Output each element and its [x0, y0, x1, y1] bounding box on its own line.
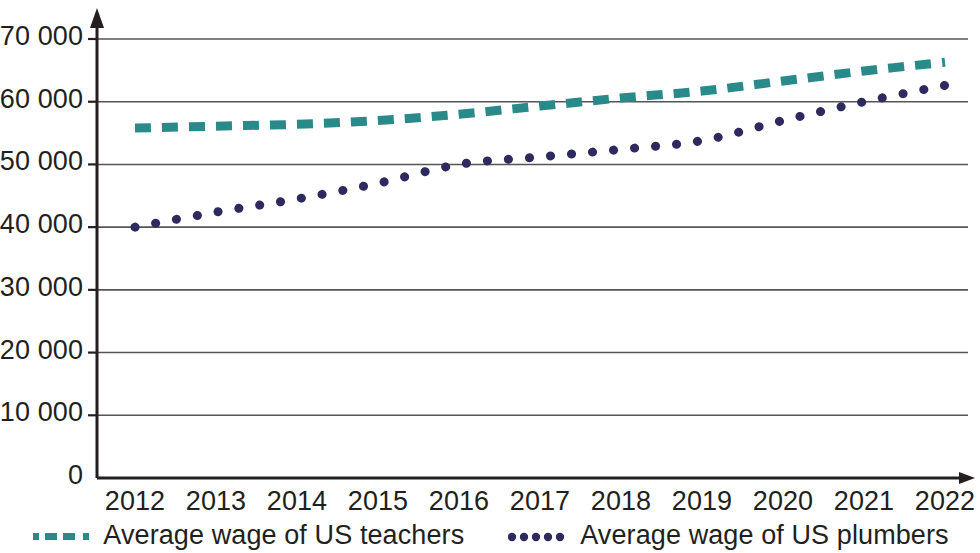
axes-group	[88, 8, 975, 484]
x-axis-tick-label: 2021	[819, 486, 909, 517]
gridlines-group	[97, 39, 968, 415]
legend-label: Average wage of US plumbers	[580, 520, 948, 551]
x-axis-tick-label: 2017	[495, 486, 585, 517]
series-line-teachers	[135, 62, 945, 128]
x-axis-tick-label: 2014	[252, 486, 342, 517]
y-axis-tick-label: 40 000	[0, 209, 83, 240]
x-axis-tick-label: 2019	[657, 486, 747, 517]
line-chart	[0, 0, 980, 553]
legend-item-teachers[interactable]: Average wage of US teachers	[31, 520, 464, 551]
y-axis-tick-label: 70 000	[0, 21, 83, 52]
x-axis-tick-label: 2022	[900, 486, 980, 517]
chart-container: 010 00020 00030 00040 00050 00060 00070 …	[0, 0, 980, 553]
y-axis-tick-label: 10 000	[0, 397, 83, 428]
x-axis-arrowhead	[959, 472, 975, 484]
y-axis-arrowhead	[90, 8, 104, 28]
x-axis-tick-label: 2015	[333, 486, 423, 517]
legend-label: Average wage of US teachers	[103, 520, 464, 551]
x-axis-tick-label: 2020	[738, 486, 828, 517]
chart-legend: Average wage of US teachersAverage wage …	[0, 518, 980, 553]
x-axis-tick-label: 2018	[576, 486, 666, 517]
dashed-line-marker	[31, 528, 97, 544]
legend-item-plumbers[interactable]: Average wage of US plumbers	[508, 520, 948, 551]
x-axis-tick-label: 2013	[171, 486, 261, 517]
y-axis-tick-label: 60 000	[0, 84, 83, 115]
y-axis-tick-label: 0	[68, 460, 83, 491]
x-axis-tick-label: 2016	[414, 486, 504, 517]
y-axis-tick-label: 50 000	[0, 146, 83, 177]
dotted-line-marker	[508, 528, 574, 544]
data-series-group	[135, 62, 945, 227]
y-axis-tick-label: 20 000	[0, 335, 83, 366]
x-axis-tick-label: 2012	[90, 486, 180, 517]
y-axis-tick-label: 30 000	[0, 272, 83, 303]
